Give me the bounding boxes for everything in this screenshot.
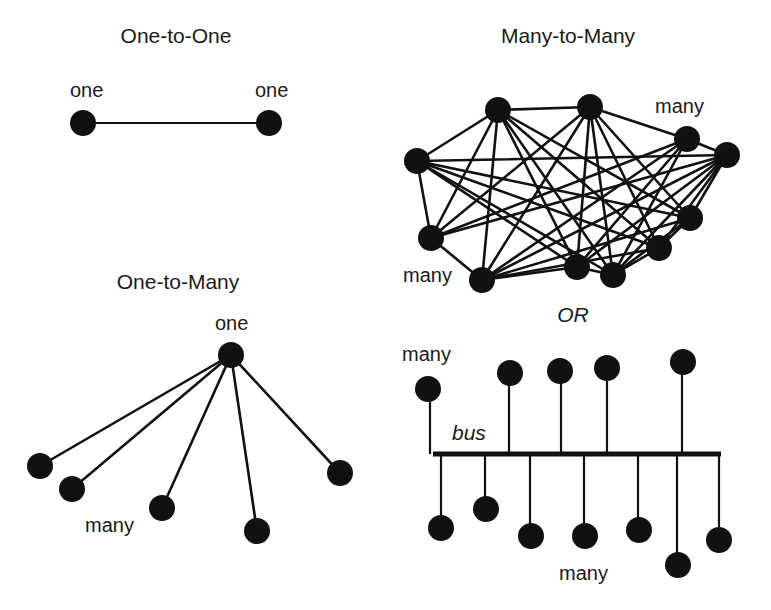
mesh-node <box>674 126 700 152</box>
mesh-node <box>646 235 672 261</box>
node-label-many: many <box>402 343 451 365</box>
title-many-to-many: Many-to-Many <box>501 24 636 47</box>
bus-node-top <box>547 358 573 384</box>
panel-bus-topology: OR bus manymany <box>402 303 732 584</box>
panel-many-to-many: Many-to-Many manymany <box>403 24 740 293</box>
mesh-node <box>677 205 703 231</box>
mesh-node <box>418 225 444 251</box>
bus-node-bottom <box>572 523 598 549</box>
mesh-node <box>714 142 740 168</box>
title-one-to-one: One-to-One <box>121 24 232 47</box>
bus-label: bus <box>452 421 486 444</box>
node-label-many: many <box>559 562 608 584</box>
node-label-one: one <box>70 79 103 101</box>
node-dot <box>256 110 282 136</box>
bus-node-bottom <box>626 517 652 543</box>
node-label-one: one <box>215 312 248 334</box>
mesh-edge <box>417 155 727 161</box>
leaf-node <box>244 518 270 544</box>
spoke-edge <box>72 355 231 489</box>
mesh-node <box>469 267 495 293</box>
diagram-canvas: One-to-One oneone Many-to-Many manymany … <box>0 0 771 610</box>
bus-node-top <box>594 355 620 381</box>
title-one-to-many: One-to-Many <box>117 270 240 293</box>
leaf-node <box>149 495 175 521</box>
network-topology-diagram: One-to-One oneone Many-to-Many manymany … <box>0 0 771 610</box>
bus-node-bottom <box>473 496 499 522</box>
mesh-edge <box>498 107 590 110</box>
bus-node-bottom <box>518 523 544 549</box>
leaf-node <box>27 453 53 479</box>
bus-node-top <box>415 376 441 402</box>
spoke-edge <box>231 355 340 473</box>
mesh-node <box>564 254 590 280</box>
node-label-many: many <box>403 264 452 286</box>
mesh-node <box>600 262 626 288</box>
node-dot <box>70 110 96 136</box>
bus-node-bottom <box>706 527 732 553</box>
spoke-edge <box>40 355 231 466</box>
spoke-edge <box>231 355 257 531</box>
mesh-edge <box>431 139 687 238</box>
hub-node <box>218 342 244 368</box>
bus-node-top <box>497 360 523 386</box>
spoke-edge <box>162 355 231 508</box>
node-label-many: many <box>85 514 134 536</box>
bus-node-bottom <box>428 515 454 541</box>
mesh-node <box>404 148 430 174</box>
bus-node-top <box>670 349 696 375</box>
bus-node-bottom <box>665 552 691 578</box>
node-label-one: one <box>255 79 288 101</box>
mesh-node <box>577 94 603 120</box>
panel-one-to-one: One-to-One oneone <box>70 24 288 136</box>
mesh-node <box>485 97 511 123</box>
leaf-node <box>327 460 353 486</box>
or-label: OR <box>557 303 589 326</box>
panel-one-to-many: One-to-Many onemany <box>27 270 353 544</box>
node-label-many: many <box>655 95 704 117</box>
leaf-node <box>59 476 85 502</box>
